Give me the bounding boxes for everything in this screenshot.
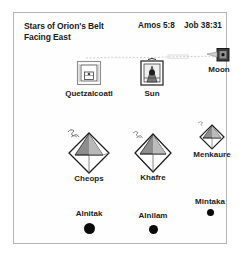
- star-dot-icon: [149, 225, 158, 234]
- pyramid-item-khafre: Khafre: [124, 127, 182, 187]
- figure-frame: Stars of Orion's Belt Facing East Amos 5…: [13, 12, 227, 244]
- star-label-mintaka: Mintaka: [195, 197, 225, 206]
- celestial-label-moon: Moon: [208, 65, 229, 74]
- celestial-item-sun: Sun: [126, 57, 178, 103]
- pyramid-diamond-icon: [61, 125, 117, 175]
- pyramid-label-khafre: Khafre: [140, 173, 165, 182]
- orion-belt-figure: Stars of Orion's Belt Facing East Amos 5…: [0, 0, 244, 260]
- star-dot-icon: [207, 209, 214, 216]
- celestial-label-sun: Sun: [144, 89, 159, 98]
- temple-square-icon: [74, 59, 104, 87]
- sun-tablet-icon: [138, 57, 166, 87]
- celestial-item-moon: Moon: [192, 47, 244, 81]
- star-dot-icon: [84, 223, 95, 234]
- reference-amos: Amos 5:8: [138, 21, 175, 30]
- celestial-label-quetzalcoatl: Quetzalcoatl: [65, 89, 113, 98]
- star-item-alnilam: Alnilam: [124, 211, 182, 241]
- star-label-alnilam: Alnilam: [139, 211, 168, 220]
- figure-title: Stars of Orion's Belt Facing East: [24, 21, 154, 43]
- pyramid-diamond-icon: [127, 127, 179, 175]
- title-line-1: Stars of Orion's Belt: [24, 21, 154, 32]
- pyramid-label-cheops: Cheops: [74, 174, 103, 183]
- title-line-2: Facing East: [24, 32, 154, 43]
- pyramid-diamond-icon: [192, 119, 232, 153]
- star-item-alnitak: Alnitak: [60, 209, 118, 241]
- pyramid-item-menkaure: Menkaure: [182, 119, 242, 167]
- moon-tablet-icon: [207, 47, 231, 63]
- star-label-alnitak: Alnitak: [76, 209, 103, 218]
- pyramid-label-menkaure: Menkaure: [193, 150, 230, 159]
- pyramid-item-cheops: Cheops: [58, 125, 120, 187]
- star-item-mintaka: Mintaka: [182, 197, 238, 225]
- reference-job: Job 38:31: [184, 21, 222, 30]
- celestial-item-quetzalcoatl: Quetzalcoatl: [58, 59, 120, 103]
